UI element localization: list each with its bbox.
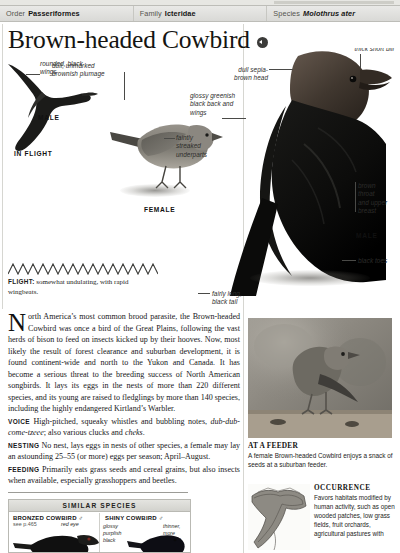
- voice-call-2: cheks: [125, 428, 143, 437]
- taxonomy-key-family: Family: [140, 9, 162, 18]
- flight-description: FLIGHT: somewhat undulating, with rapid …: [8, 278, 160, 297]
- label-dull-sepia-head: dull sepia- brown head: [206, 66, 268, 83]
- similar-species-item-bronzed[interactable]: BRONZED COWBIRD ♂ see p.465 red eye: [9, 513, 100, 553]
- occurrence-block: OCCURRENCE Favors habitats modified by h…: [248, 484, 396, 550]
- leader-toes: [342, 260, 356, 261]
- section-text-feeding: Primarily eats grass seeds and cereal gr…: [8, 465, 240, 486]
- taxonomy-value-order: Passeriformes: [28, 9, 80, 18]
- label-thick-short-bill: thick short bill: [290, 48, 394, 53]
- bronzed-cowbird-thumbnail: [11, 529, 102, 553]
- male-ground-shadow: [250, 270, 370, 286]
- section-nesting: NESTING No nest, lays eggs in nests of o…: [8, 440, 240, 463]
- voice-text-mid: ; also various clucks and: [44, 428, 125, 437]
- section-label-nesting: NESTING: [8, 442, 39, 449]
- section-feeding: FEEDING Primarily eats grass seeds and c…: [8, 464, 240, 487]
- feeder-caption: AT A FEEDER A female Brown-headed Cowbir…: [248, 441, 394, 469]
- taxonomy-key-order: Order: [6, 9, 25, 18]
- flight-zigzag-icon: [8, 262, 158, 276]
- section-divider-rule: [8, 492, 188, 493]
- taxonomy-cell-species: Species Molothrus ater: [267, 6, 400, 21]
- occurrence-title: OCCURRENCE: [314, 484, 396, 492]
- leader-tail: [198, 293, 210, 294]
- leader-glossy: [222, 118, 246, 119]
- occurrence-text-block: OCCURRENCE Favors habitats modified by h…: [314, 484, 396, 550]
- taxonomy-bar: Order Passeriformes Family Icteridae Spe…: [0, 5, 400, 22]
- similar-species-panel: SIMILAR SPECIES BRONZED COWBIRD ♂ see p.…: [8, 499, 191, 553]
- label-male: MALE: [356, 232, 377, 239]
- leader-throat: [355, 182, 356, 212]
- leader-sepia-head: [269, 69, 293, 70]
- label-glossy-greenish: glossy greenish black back and wings: [190, 92, 235, 117]
- leader-bill: [360, 54, 361, 68]
- lead-text: orth America’s most common brood parasit…: [28, 312, 240, 321]
- voice-text-end: .: [143, 428, 145, 437]
- section-text-voice: High-pitched, squeaky whistles and bubbl…: [30, 417, 211, 426]
- taxonomy-key-species: Species: [273, 9, 300, 18]
- lead-paragraph: North America’s most common brood parasi…: [8, 311, 240, 415]
- main-description: North America’s most common brood parasi…: [8, 311, 240, 488]
- taxonomy-value-family: Icteridae: [165, 9, 196, 18]
- section-voice: VOICE High-pitched, squeaky whistles and…: [8, 416, 240, 439]
- female-ground-shadow: [120, 184, 190, 197]
- leader-plumage: [124, 72, 125, 100]
- shiny-cowbird-thumbnail: [127, 529, 187, 553]
- section-label-feeding: FEEDING: [8, 466, 39, 473]
- label-female: FEMALE: [144, 206, 175, 213]
- body-paragraph: Cowbird was once a bird of the Great Pla…: [8, 324, 240, 414]
- label-faintly-streaked: faintly streaked underparts: [176, 134, 207, 159]
- label-male-in-flight: MALE: [38, 114, 59, 121]
- field-guide-page: Order Passeriformes Family Icteridae Spe…: [0, 0, 400, 553]
- shiny-cowbird-sex-icon: ♂: [159, 515, 164, 521]
- flight-pattern-block: FLIGHT: somewhat undulating, with rapid …: [8, 262, 160, 297]
- drop-cap: N: [8, 312, 28, 334]
- similar-species-item-shiny[interactable]: SHINY COWBIRD ♂ glossy purplish black th…: [101, 513, 191, 553]
- range-map: [248, 484, 310, 550]
- leader-streaked: [164, 138, 175, 139]
- section-text-nesting: No nest, lays eggs in nests of other spe…: [8, 441, 240, 462]
- taxonomy-cell-family: Family Icteridae: [134, 6, 268, 21]
- feeder-caption-title: AT A FEEDER: [248, 441, 394, 450]
- label-in-flight: IN FLIGHT: [14, 150, 53, 157]
- shiny-cowbird-name: SHINY COWBIRD: [105, 515, 157, 521]
- bronzed-cowbird-sex-icon: ♂: [79, 515, 84, 521]
- bronzed-cowbird-page-ref[interactable]: see p.465: [9, 521, 99, 527]
- label-brown-throat: brown throat and upper breast: [358, 182, 387, 216]
- label-black-toes: black toes: [358, 257, 387, 265]
- bronzed-cowbird-callout: red eye: [61, 521, 79, 528]
- similar-species-name-shiny: SHINY COWBIRD ♂: [101, 513, 191, 521]
- occurrence-body: Favors habitats modified by human activi…: [314, 493, 396, 538]
- similar-species-heading: SIMILAR SPECIES: [9, 500, 190, 512]
- taxonomy-cell-order: Order Passeriformes: [0, 6, 134, 21]
- similar-species-name-bronzed: BRONZED COWBIRD ♂: [9, 513, 99, 521]
- label-dull-brownish-plumage: dull, unmarked brownish plumage: [52, 62, 105, 79]
- section-label-voice: VOICE: [8, 418, 30, 425]
- feeder-photograph: [248, 318, 392, 438]
- flight-label: FLIGHT:: [8, 278, 35, 285]
- leader-rounded-wings: [26, 74, 40, 75]
- feeder-caption-body: A female Brown-headed Cowbird enjoys a s…: [248, 451, 394, 469]
- label-fairly-long-tail: fairly long, black tail: [212, 290, 242, 307]
- speaker-icon[interactable]: [257, 37, 268, 48]
- taxonomy-value-species: Molothrus ater: [303, 9, 355, 18]
